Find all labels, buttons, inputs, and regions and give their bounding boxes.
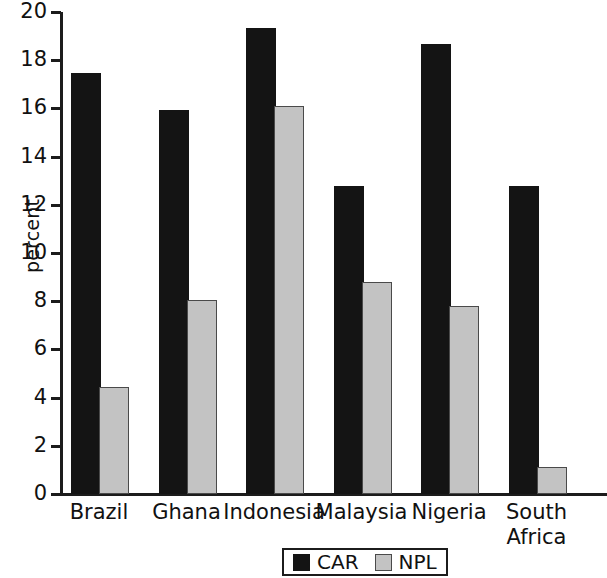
bar-npl-2 (274, 106, 304, 494)
bar-car-0 (71, 73, 101, 494)
bar-group (159, 12, 215, 494)
bar-car-2 (246, 28, 276, 494)
y-tick-mark (51, 252, 61, 255)
bar-group (421, 12, 477, 494)
gray-square-swatch-icon (375, 554, 392, 571)
bar-npl-3 (362, 282, 392, 494)
y-tick-label: 4 (1, 387, 47, 408)
y-tick-mark (51, 59, 61, 62)
y-tick-mark (51, 493, 61, 496)
bar-group (71, 12, 127, 494)
bar-group (334, 12, 390, 494)
bar-car-5 (509, 186, 539, 494)
black-square-swatch-icon (293, 554, 310, 571)
legend-item-npl: NPL (375, 552, 437, 572)
y-tick-mark (51, 156, 61, 159)
y-tick-label: 6 (1, 338, 47, 359)
y-tick-label: 16 (1, 97, 47, 118)
bar-group (246, 12, 302, 494)
y-tick-mark (51, 445, 61, 448)
bar-npl-0 (99, 387, 129, 494)
y-tick-label: 20 (1, 1, 47, 22)
bar-npl-4 (449, 306, 479, 494)
y-tick-label: 14 (1, 146, 47, 167)
bar-npl-5 (537, 467, 567, 494)
y-tick-label: 12 (1, 194, 47, 215)
y-tick-label: 2 (1, 435, 47, 456)
y-tick-mark (51, 11, 61, 14)
bar-group (509, 12, 565, 494)
y-tick-label: 10 (1, 242, 47, 263)
bar-npl-1 (187, 300, 217, 494)
bar-car-1 (159, 110, 189, 494)
legend-label-car: CAR (317, 552, 359, 572)
x-label-south-africa: South Africa (477, 500, 597, 550)
legend-label-npl: NPL (399, 552, 437, 572)
plot-area (63, 12, 607, 494)
bar-chart: percent 20181614121086420 BrazilGhanaInd… (0, 0, 607, 578)
y-tick-mark (51, 300, 61, 303)
chart-legend: CAR NPL (282, 548, 448, 576)
y-tick-label: 18 (1, 49, 47, 70)
y-tick-mark (51, 397, 61, 400)
y-tick-mark (51, 204, 61, 207)
bar-car-4 (421, 44, 451, 494)
legend-item-car: CAR (293, 552, 359, 572)
y-tick-label: 8 (1, 290, 47, 311)
bar-car-3 (334, 186, 364, 494)
y-tick-mark (51, 348, 61, 351)
y-tick-mark (51, 107, 61, 110)
